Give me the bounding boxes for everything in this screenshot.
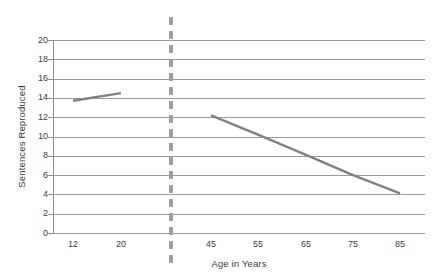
- y-axis-tick-mark: [48, 117, 53, 118]
- plot-area: [53, 40, 425, 233]
- line-chart: Sentences Reproduced 20181614121086420 1…: [0, 0, 435, 280]
- x-axis-tick-label: 65: [301, 240, 311, 249]
- x-axis-title: Age in Years: [53, 258, 425, 269]
- gridline: [53, 156, 425, 157]
- gridline: [53, 214, 425, 215]
- y-axis-tick-mark: [48, 98, 53, 99]
- y-axis-tick-label: 20: [26, 36, 48, 45]
- y-axis-tick-mark: [48, 214, 53, 215]
- y-axis-tick-mark: [48, 59, 53, 60]
- x-axis-tick-label: 55: [253, 240, 263, 249]
- x-axis-tick-labels: 12204555657585: [0, 240, 435, 256]
- y-axis-tick-label: 6: [26, 171, 48, 180]
- gridline: [53, 59, 425, 60]
- y-axis-tick-label: 8: [26, 151, 48, 160]
- y-axis-tick-label: 16: [26, 74, 48, 83]
- y-axis-tick-label: 14: [26, 93, 48, 102]
- gridline: [53, 137, 425, 138]
- gridline: [53, 117, 425, 118]
- y-axis-tick-mark: [48, 137, 53, 138]
- x-axis-tick-label: 85: [395, 240, 405, 249]
- y-axis-tick-label: 2: [26, 209, 48, 218]
- x-axis-tick-label: 75: [348, 240, 358, 249]
- gridline: [53, 175, 425, 176]
- x-axis-tick-label: 12: [68, 240, 78, 249]
- y-axis-tick-mark: [48, 194, 53, 195]
- gridline: [53, 233, 425, 234]
- y-axis-tick-mark: [48, 175, 53, 176]
- gridline: [53, 194, 425, 195]
- y-axis-tick-mark: [48, 156, 53, 157]
- y-axis-tick-label: 4: [26, 190, 48, 199]
- x-axis-tick-label: 20: [116, 240, 126, 249]
- gridline: [53, 40, 425, 41]
- y-axis-tick-mark: [48, 79, 53, 80]
- y-axis-tick-label: 0: [26, 229, 48, 238]
- gridline: [53, 79, 425, 80]
- y-axis-tick-labels: 20181614121086420: [26, 0, 48, 280]
- y-axis-tick-mark: [48, 233, 53, 234]
- x-axis-tick-label: 45: [206, 240, 216, 249]
- y-axis-tick-mark: [48, 40, 53, 41]
- gridline: [53, 98, 425, 99]
- y-axis-tick-label: 12: [26, 113, 48, 122]
- y-axis-tick-label: 18: [26, 55, 48, 64]
- group-divider-dashed-line: [169, 17, 173, 266]
- y-axis-tick-label: 10: [26, 132, 48, 141]
